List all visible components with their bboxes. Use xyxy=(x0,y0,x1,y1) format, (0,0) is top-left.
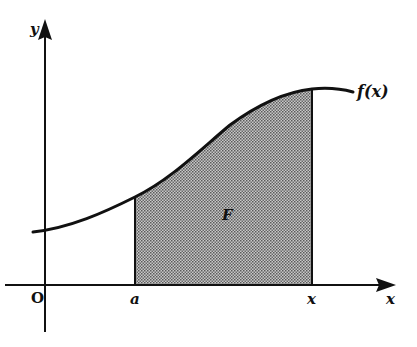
x-axis-label: x xyxy=(386,292,395,307)
area-label: F xyxy=(222,208,233,223)
area-region xyxy=(135,89,312,285)
origin-label: O xyxy=(31,291,44,306)
lower-bound-label: a xyxy=(130,292,140,307)
function-label: f(x) xyxy=(357,84,389,100)
y-axis-arrow-icon xyxy=(38,19,52,40)
diagram-svg xyxy=(0,0,417,347)
upper-bound-label: x xyxy=(307,292,316,307)
y-axis-label: y xyxy=(30,22,39,37)
diagram-canvas: y O a x x f(x) F xyxy=(0,0,417,347)
